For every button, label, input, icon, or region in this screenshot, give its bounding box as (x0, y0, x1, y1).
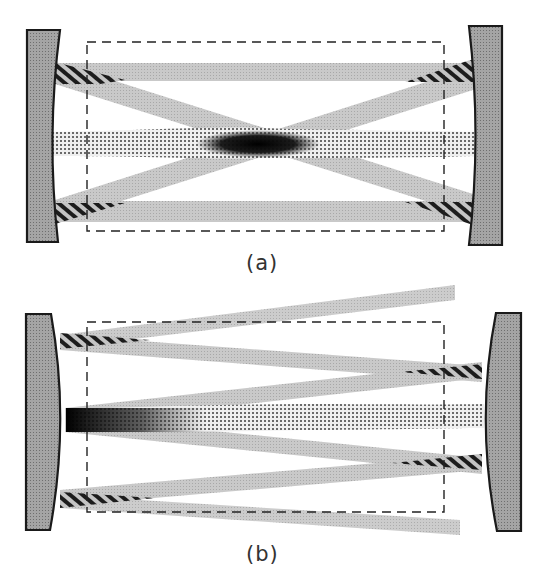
mirror-left-b (26, 314, 60, 530)
caption-b: (b) (246, 542, 279, 566)
beam-crossing (196, 130, 320, 158)
panel-b (26, 285, 521, 535)
caption-a: (a) (246, 251, 278, 275)
mirror-right-b (486, 313, 521, 531)
optical-cavity-diagram (0, 0, 544, 578)
panel-a (27, 26, 502, 245)
